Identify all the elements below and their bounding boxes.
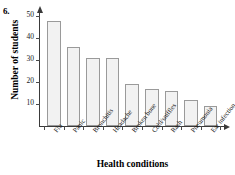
y-axis-arrow-icon: [37, 6, 43, 13]
x-axis-title: Health conditions: [40, 160, 225, 170]
y-axis-tick-mark: [36, 38, 40, 39]
plot-area: 1020304050 FluPanicBronchitisHeadacheBro…: [39, 8, 229, 127]
y-axis-tick-label: 10: [19, 99, 34, 107]
y-axis-tick-label: 40: [19, 33, 34, 41]
problem-number: 6.: [3, 7, 9, 16]
y-axis-tick-mark: [36, 60, 40, 61]
x-axis-arrow-icon: [224, 124, 230, 130]
bar: [67, 47, 81, 126]
x-axis-category-label: Flu: [53, 123, 64, 134]
y-axis-tick-mark: [36, 16, 40, 17]
bar: [86, 58, 100, 126]
y-axis-tick-label: 30: [19, 55, 34, 63]
y-axis-tick-mark: [36, 82, 40, 83]
x-axis-tick-mark: [44, 126, 45, 130]
x-axis-tick-mark: [83, 126, 84, 130]
x-axis-tick-mark: [181, 126, 182, 130]
y-axis-tick-label: 50: [19, 11, 34, 19]
y-axis-tick-label: 20: [19, 77, 34, 85]
y-axis-line: [39, 12, 40, 126]
bar: [47, 21, 61, 126]
y-axis-tick-mark: [36, 104, 40, 105]
figure-container: 6. Number of students Health conditions …: [0, 0, 235, 175]
